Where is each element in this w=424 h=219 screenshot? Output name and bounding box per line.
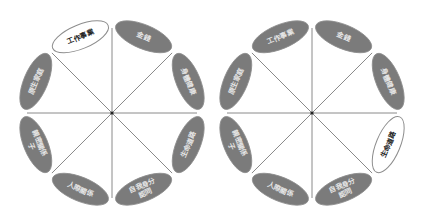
segment-0: 工作事業 <box>248 14 313 59</box>
segment-3: 生命道路 <box>366 112 411 177</box>
segment-0: 工作事業 <box>48 14 113 59</box>
segment-1: 金錢 <box>111 14 176 59</box>
life-wheel-diagram: 工作事業金錢身體健康生命道路自我身分認同人際關係親密關係子原生家庭 工作事業金錢… <box>0 0 424 219</box>
center-hub <box>310 111 313 114</box>
segment-5: 人際關係 <box>48 167 113 212</box>
segment-1: 金錢 <box>311 14 376 59</box>
segment-3: 生命道路 <box>166 112 211 177</box>
life-wheel-right: 工作事業金錢身體健康生命道路自我身分認同人際關係親密關係子原生家庭 <box>213 14 411 212</box>
segment-2: 身體健康 <box>166 49 211 114</box>
segment-5: 人際關係 <box>248 167 313 212</box>
segment-2: 身體健康 <box>366 49 411 114</box>
segment-7: 原生家庭 <box>13 49 58 114</box>
segment-4: 自我身分認同 <box>311 167 376 212</box>
segment-6: 親密關係子 <box>13 112 58 177</box>
segment-7: 原生家庭 <box>213 49 258 114</box>
life-wheel-left: 工作事業金錢身體健康生命道路自我身分認同人際關係親密關係子原生家庭 <box>13 14 211 212</box>
segment-4: 自我身分認同 <box>111 167 176 212</box>
center-hub <box>110 111 113 114</box>
segment-6: 親密關係子 <box>213 112 258 177</box>
